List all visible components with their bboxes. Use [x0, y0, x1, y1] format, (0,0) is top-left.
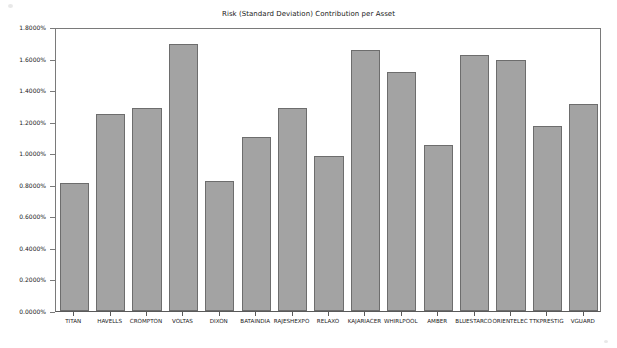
x-axis-tick — [73, 312, 74, 316]
y-axis-label: 1.4000% — [0, 87, 46, 94]
chart-title: Risk (Standard Deviation) Contribution p… — [0, 10, 617, 18]
x-axis-tick — [182, 312, 183, 316]
y-axis-label: 0.6000% — [0, 213, 46, 220]
x-axis-label: VGUARD — [571, 318, 595, 324]
bar — [278, 108, 307, 311]
x-axis-tick — [401, 312, 402, 316]
bar — [496, 60, 525, 311]
x-axis-tick — [292, 312, 293, 316]
bar — [96, 114, 125, 311]
bar — [569, 104, 598, 311]
page-speckle — [604, 340, 608, 343]
chart-figure: Risk (Standard Deviation) Contribution p… — [0, 0, 617, 348]
x-axis-tick — [110, 312, 111, 316]
x-axis-tick — [219, 312, 220, 316]
y-axis-label: 1.2000% — [0, 119, 46, 126]
bar — [460, 55, 489, 311]
y-axis-label: 0.4000% — [0, 245, 46, 252]
bar — [351, 50, 380, 311]
x-axis-tick — [364, 312, 365, 316]
bar — [132, 108, 161, 311]
x-axis-label: TTKPRESTIG — [529, 318, 563, 324]
x-axis-tick — [146, 312, 147, 316]
x-axis-label: BLUESTARCO — [455, 318, 492, 324]
x-axis-tick — [474, 312, 475, 316]
y-axis-label: 0.0000% — [0, 308, 46, 315]
y-axis-label: 1.8000% — [0, 24, 46, 31]
x-axis-label: KAJARIACER — [348, 318, 381, 324]
y-axis-label: 0.8000% — [0, 182, 46, 189]
x-axis-tick — [437, 312, 438, 316]
x-axis-tick — [546, 312, 547, 316]
x-axis-tick — [583, 312, 584, 316]
x-axis-label: WHIRLPOOL — [384, 318, 418, 324]
y-axis-label: 0.2000% — [0, 276, 46, 283]
bar-series — [56, 29, 600, 311]
x-axis-tick — [328, 312, 329, 316]
x-axis-label: ORIENTELEC — [492, 318, 527, 324]
x-axis-label: RAJESHEXPO — [274, 318, 310, 324]
bar — [314, 156, 343, 311]
x-axis-label: AMBER — [427, 318, 447, 324]
plot-area — [55, 28, 601, 312]
x-axis-tick — [255, 312, 256, 316]
x-axis-label: BATAINDIA — [240, 318, 270, 324]
bar — [387, 72, 416, 311]
bar — [169, 44, 198, 311]
x-axis-label: VOLTAS — [172, 318, 193, 324]
x-axis-label: CROMPTON — [130, 318, 162, 324]
x-axis-tick — [510, 312, 511, 316]
x-axis-label: HAVELLS — [97, 318, 122, 324]
bar — [205, 181, 234, 311]
y-axis-tick — [50, 312, 55, 313]
x-axis-label: RELAXO — [317, 318, 339, 324]
bar — [533, 126, 562, 311]
bar — [60, 183, 89, 311]
x-axis-label: DIXON — [210, 318, 228, 324]
page-speckle — [8, 4, 13, 8]
x-axis-label: TITAN — [65, 318, 81, 324]
y-axis-label: 1.6000% — [0, 56, 46, 63]
bar — [424, 145, 453, 311]
bar — [242, 137, 271, 311]
y-axis-label: 1.0000% — [0, 150, 46, 157]
